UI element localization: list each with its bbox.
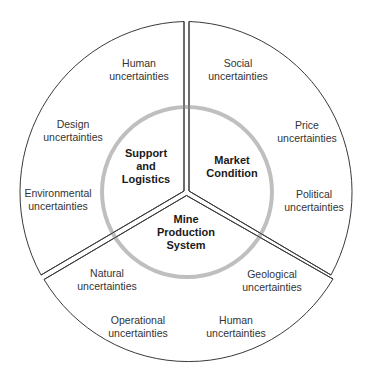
core-label-line: System: [166, 239, 205, 251]
svg-text:Natural: Natural: [90, 267, 124, 279]
svg-text:uncertainties: uncertainties: [284, 201, 344, 213]
svg-text:Geological: Geological: [247, 268, 297, 280]
svg-text:uncertainties: uncertainties: [109, 70, 169, 82]
label-price-uncertainties: Price uncertainties: [277, 119, 337, 144]
svg-text:Political: Political: [296, 188, 332, 200]
svg-text:uncertainties: uncertainties: [43, 131, 103, 143]
svg-text:Operational: Operational: [111, 314, 165, 326]
core-label-line: Condition: [206, 167, 258, 179]
svg-text:uncertainties: uncertainties: [242, 281, 302, 293]
svg-text:uncertainties: uncertainties: [28, 200, 88, 212]
core-label-line: Support: [125, 147, 167, 159]
label-natural-uncertainties: Natural uncertainties: [77, 267, 137, 292]
core-mine-production: Mine Production System: [157, 213, 215, 251]
label-design-uncertainties: Design uncertainties: [43, 118, 103, 143]
label-human-uncertainties-top: Human uncertainties: [109, 57, 169, 82]
core-label-line: Market: [214, 154, 250, 166]
label-environmental-uncertainties: Environmental uncertainties: [24, 187, 91, 212]
svg-text:uncertainties: uncertainties: [208, 70, 268, 82]
label-social-uncertainties: Social uncertainties: [208, 57, 268, 82]
svg-text:uncertainties: uncertainties: [108, 327, 168, 339]
core-label-line: and: [136, 160, 156, 172]
core-support-logistics: Support and Logistics: [122, 147, 170, 185]
inner-ring: [102, 107, 272, 277]
label-human-uncertainties-bottom: Human uncertainties: [206, 314, 266, 339]
svg-text:Environmental: Environmental: [24, 187, 91, 199]
svg-text:Human: Human: [122, 57, 156, 69]
core-label-line: Logistics: [122, 173, 170, 185]
label-geological-uncertainties: Geological uncertainties: [242, 268, 302, 293]
svg-text:Human: Human: [219, 314, 253, 326]
uncertainty-diagram: Support and Logistics Market Condition M…: [0, 0, 365, 377]
svg-text:uncertainties: uncertainties: [277, 132, 337, 144]
svg-text:Price: Price: [295, 119, 319, 131]
label-operational-uncertainties: Operational uncertainties: [108, 314, 168, 339]
svg-text:Social: Social: [224, 57, 253, 69]
svg-text:uncertainties: uncertainties: [77, 280, 137, 292]
svg-text:Design: Design: [57, 118, 90, 130]
svg-text:uncertainties: uncertainties: [206, 327, 266, 339]
core-label-line: Mine: [173, 213, 198, 225]
label-political-uncertainties: Political uncertainties: [284, 188, 344, 213]
core-market-condition: Market Condition: [206, 154, 258, 179]
core-label-line: Production: [157, 226, 215, 238]
